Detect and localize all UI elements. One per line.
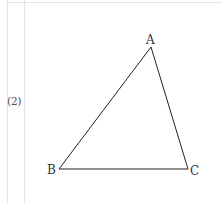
triangle-abc bbox=[59, 47, 188, 169]
vertex-label-c: C bbox=[190, 164, 199, 178]
triangle-figure: A B C bbox=[0, 0, 222, 203]
vertex-label-a: A bbox=[145, 33, 155, 47]
vertex-label-b: B bbox=[47, 163, 56, 177]
